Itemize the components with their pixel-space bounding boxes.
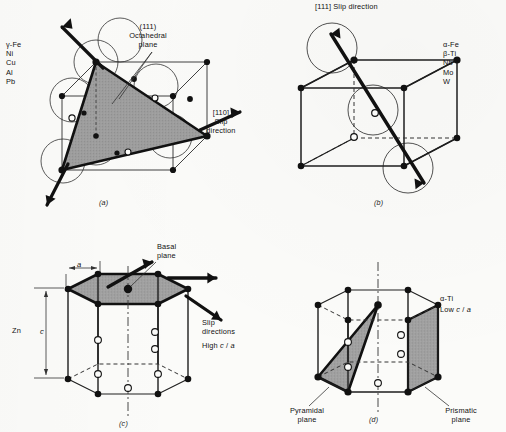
panel-d-ratio-label: Low c / a [440, 305, 471, 314]
panel-b-bcc: [111] Slip direction α-Fe β-Ti Nb Mo W (… [253, 0, 506, 216]
panel-a-fcc: γ-Fe Ni Cu Al Pb (111) Octahedral plane … [0, 0, 253, 216]
panel-d-pyramidal-label: Pyramidal plane [253, 406, 361, 424]
panel-a-materials: γ-Fe Ni Cu Al Pb [6, 40, 21, 86]
panel-b-materials: α-Fe β-Ti Nb Mo W [443, 40, 459, 86]
panel-a-plane-label: (111) Octahedral plane [106, 22, 190, 50]
panel-c-ratio-label: High c / a [202, 341, 235, 350]
panel-c-dim-a-label: a [77, 260, 81, 269]
panel-c-dim-c-label: c [40, 327, 44, 336]
slip-direction-arrow-b [331, 28, 424, 189]
center-atoms-b [351, 110, 379, 141]
panel-c-ratio-prefix: High [202, 341, 218, 350]
panel-d-id: (d) [369, 415, 378, 424]
panel-c-direction-label: Slip directions [202, 318, 235, 336]
panel-d-drawing [253, 216, 506, 432]
panel-d-material: α-Ti [440, 294, 453, 303]
panel-b-direction-label: [111] Slip direction [315, 2, 378, 11]
panel-c-hcp-high: Zn a c Basal plane Slip directions High … [0, 216, 253, 432]
panel-d-prismatic-label: Prismatic plane [421, 406, 501, 424]
panel-a-direction-label: [110] Slip direction [193, 108, 249, 136]
panel-a-id: (a) [99, 198, 108, 207]
panel-b-drawing [253, 0, 506, 216]
panel-c-material: Zn [12, 326, 21, 335]
panel-d-hcp-low: α-Ti Low c / a Pyramidal plane Prismatic… [253, 216, 506, 432]
panel-d-ratio-prefix: Low [440, 305, 454, 314]
panel-b-id: (b) [374, 198, 383, 207]
panel-c-plane-label: Basal plane [157, 242, 176, 260]
figure-page: γ-Fe Ni Cu Al Pb (111) Octahedral plane … [0, 0, 506, 432]
panel-c-id: (c) [119, 419, 128, 428]
dimension-c-c [34, 288, 64, 378]
plane-leaders-d [309, 387, 449, 406]
